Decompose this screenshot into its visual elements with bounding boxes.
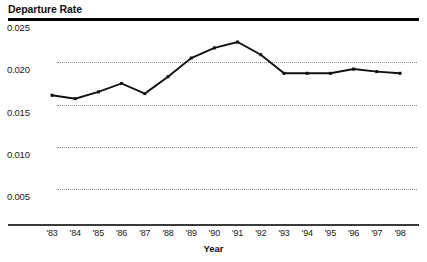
data-point-marker xyxy=(352,68,355,71)
x-tick-label: '94 xyxy=(302,228,313,238)
data-point-marker xyxy=(167,75,170,78)
data-point-marker xyxy=(97,90,100,93)
x-tick-label: '95 xyxy=(325,228,336,238)
x-tick-label: '84 xyxy=(70,228,81,238)
data-point-marker xyxy=(120,82,123,85)
data-point-marker xyxy=(190,57,193,60)
x-tick-label: '96 xyxy=(348,228,359,238)
x-tick-label: '92 xyxy=(255,228,266,238)
data-point-marker xyxy=(51,94,54,97)
data-point-marker xyxy=(399,72,402,75)
departure-rate-chart: Departure Rate 0.0050.0100.0150.0200.025… xyxy=(0,0,427,262)
x-tick-label: '88 xyxy=(162,228,173,238)
x-tick-label: '85 xyxy=(93,228,104,238)
x-tick-label: '83 xyxy=(46,228,57,238)
x-tick-label: '89 xyxy=(186,228,197,238)
plot-area: 0.0050.0100.0150.0200.025 xyxy=(0,0,427,262)
data-point-marker xyxy=(306,72,309,75)
data-point-marker xyxy=(143,92,146,95)
x-tick-label: '97 xyxy=(371,228,382,238)
data-point-marker xyxy=(329,72,332,75)
x-tick-label: '93 xyxy=(278,228,289,238)
x-axis-title: Year xyxy=(0,243,427,254)
data-point-marker xyxy=(259,53,262,56)
x-tick-label: '91 xyxy=(232,228,243,238)
x-tick-label: '86 xyxy=(116,228,127,238)
series-line-departure-rate xyxy=(0,0,427,262)
data-point-marker xyxy=(375,70,378,73)
data-point-marker xyxy=(213,46,216,49)
x-tick-label: '98 xyxy=(394,228,405,238)
x-axis-rule xyxy=(8,224,419,226)
data-point-marker xyxy=(74,97,77,100)
data-point-marker xyxy=(283,72,286,75)
x-tick-label: '90 xyxy=(209,228,220,238)
x-tick-label: '87 xyxy=(139,228,150,238)
data-point-marker xyxy=(236,41,239,44)
